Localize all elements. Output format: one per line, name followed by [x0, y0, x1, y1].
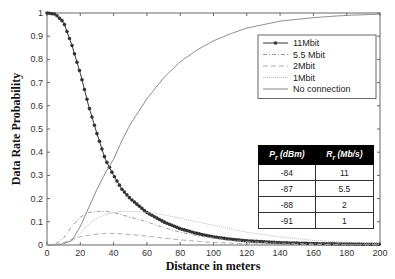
header-pr: Pr (dBm) — [259, 146, 316, 165]
y-tick-label: 0.9 — [30, 31, 43, 41]
table-row: -911 — [259, 213, 374, 229]
data-marker — [68, 37, 72, 41]
x-tick-label: 40 — [109, 248, 119, 258]
x-axis-title: Distance in meters — [166, 259, 261, 273]
cell-pr: -91 — [259, 213, 316, 229]
data-marker — [70, 44, 74, 48]
data-marker — [123, 190, 127, 194]
table-row: -882 — [259, 197, 374, 213]
cell-rr: 1 — [315, 213, 373, 229]
x-tick-label: 0 — [44, 248, 49, 258]
data-marker — [120, 188, 124, 192]
x-tick-label: 60 — [142, 248, 152, 258]
x-tick-label: 140 — [273, 248, 288, 258]
data-marker — [88, 107, 92, 111]
y-tick-label: 1 — [38, 8, 43, 18]
x-tick-label: 20 — [75, 248, 85, 258]
legend: 11Mbit5.5 Mbit2Mbit1MbitNo connection — [258, 35, 376, 99]
data-marker — [63, 23, 67, 27]
data-marker — [60, 19, 64, 23]
data-marker — [115, 179, 119, 183]
cell-rr: 11 — [315, 165, 373, 181]
legend-item-label: No connection — [293, 84, 351, 94]
data-marker — [83, 88, 87, 92]
x-tick-label: 120 — [239, 248, 254, 258]
data-marker — [113, 175, 117, 179]
data-marker — [118, 183, 122, 187]
x-tick-label: 100 — [206, 248, 221, 258]
x-tick-label: 180 — [339, 248, 354, 258]
cell-pr: -87 — [259, 181, 316, 197]
legend-item-label: 2Mbit — [293, 61, 316, 71]
data-marker — [85, 98, 89, 102]
data-marker — [65, 30, 69, 34]
data-marker — [100, 147, 104, 151]
data-marker — [103, 155, 107, 159]
y-tick-label: 0.7 — [30, 78, 43, 88]
table-row: -8411 — [259, 165, 374, 181]
data-marker — [110, 170, 114, 174]
data-marker — [90, 115, 94, 119]
data-marker — [377, 242, 381, 246]
chart-canvas: 020406080100120140160180200 00.10.20.30.… — [0, 0, 395, 279]
y-axis-title: Data Rate Probability — [9, 73, 23, 185]
inset-table: Pr (dBm) Rr (Mb/s) -8411 -875.5 -882 -91… — [258, 145, 374, 229]
data-marker — [98, 139, 102, 143]
cell-pr: -88 — [259, 197, 316, 213]
legend-item-label: 11Mbit — [293, 38, 320, 48]
data-marker — [80, 78, 84, 82]
data-marker — [93, 123, 97, 127]
cell-pr: -84 — [259, 165, 316, 181]
y-tick-label: 0.6 — [30, 101, 43, 111]
data-marker — [78, 69, 82, 73]
x-tick-label: 160 — [306, 248, 321, 258]
y-tick-label: 0.3 — [30, 170, 43, 180]
data-marker — [125, 193, 129, 197]
y-tick-label: 0.5 — [30, 124, 43, 134]
y-tick-label: 0.1 — [30, 217, 43, 227]
legend-item-label: 1Mbit — [293, 73, 316, 83]
legend-item-label: 5.5 Mbit — [293, 50, 326, 60]
x-tick-label: 200 — [372, 248, 387, 258]
cell-rr: 5.5 — [315, 181, 373, 197]
cell-rr: 2 — [315, 197, 373, 213]
y-tick-label: 0.8 — [30, 54, 43, 64]
data-marker — [75, 60, 79, 64]
y-tick-label: 0.4 — [30, 147, 43, 157]
data-marker — [73, 52, 77, 56]
data-marker — [105, 161, 109, 165]
data-marker — [95, 132, 99, 136]
y-tick-label: 0 — [38, 240, 43, 250]
y-tick-label: 0.2 — [30, 194, 43, 204]
table-header-row: Pr (dBm) Rr (Mb/s) — [259, 146, 374, 165]
table-row: -875.5 — [259, 181, 374, 197]
x-tick-label: 80 — [175, 248, 185, 258]
header-rr: Rr (Mb/s) — [315, 146, 373, 165]
